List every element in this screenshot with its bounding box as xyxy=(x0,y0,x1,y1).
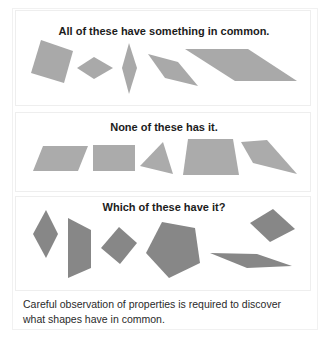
shapes-canvas xyxy=(0,0,328,339)
tilted-square-shape xyxy=(31,40,73,83)
thin-parallelogram-shape xyxy=(210,253,292,268)
trapezoid-shape xyxy=(183,139,239,175)
pentagon-shape xyxy=(146,222,200,278)
example-shapes xyxy=(31,40,297,94)
rectangle-shape xyxy=(93,145,135,171)
figure-caption: Careful observation of properties is req… xyxy=(23,297,313,327)
irregular-quadrilateral-shape xyxy=(241,140,297,174)
caption-line-1: Careful observation of properties is req… xyxy=(23,297,313,312)
tilted-square-shape xyxy=(101,227,137,264)
question-shapes xyxy=(33,209,295,278)
parallelogram-shape xyxy=(33,146,88,171)
non-example-shapes xyxy=(33,139,297,175)
tall-rhombus-shape xyxy=(122,43,137,94)
long-parallelogram-shape xyxy=(185,49,297,81)
trapezoid-shape xyxy=(68,218,91,278)
tilted-rhombus-shape xyxy=(250,209,295,242)
flat-rhombus-shape xyxy=(77,57,113,79)
caption-line-2: what shapes have in common. xyxy=(23,312,313,327)
triangle-shape xyxy=(140,142,173,174)
rhombus-shape xyxy=(33,210,58,258)
slanted-rhombus-shape xyxy=(148,54,198,86)
